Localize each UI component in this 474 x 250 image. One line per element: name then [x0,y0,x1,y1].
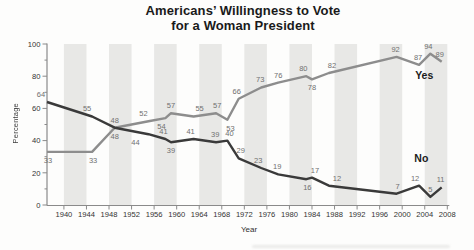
y-tick-label: 0 [36,201,40,210]
data-point-label: 73 [256,75,264,84]
x-tick-label: 1988 [326,210,343,219]
x-tick-label: 1952 [123,210,140,219]
x-tick-label: 1956 [146,210,163,219]
x-tick-label: 1960 [168,210,185,219]
background-band [244,44,267,206]
x-tick-label: 1972 [236,210,253,219]
data-point-label: 40 [225,129,233,138]
x-tick-label: 1992 [349,210,366,219]
x-axis-label: Year [228,225,270,234]
data-point-label: 12 [411,174,419,183]
x-tick-label: 2004 [416,210,433,219]
x-tick-label: 1968 [213,210,230,219]
y-tick-label: 60 [32,104,40,113]
x-tick-label: 1944 [78,210,95,219]
y-tick-label: 20 [32,169,40,178]
data-point-label: 55 [83,104,91,113]
data-point-label: 80 [299,64,307,73]
data-point-label: 16 [303,183,311,192]
data-point-label: 41 [159,127,167,136]
x-tick-label: 1948 [101,210,118,219]
y-tick-label: 80 [32,72,40,81]
data-point-label: 48 [110,116,118,125]
data-point-label: 11 [437,175,445,184]
data-point-label: 76 [274,71,282,80]
data-point-label: 87 [414,53,422,62]
data-point-label: 82 [328,61,336,70]
series-yes-label: Yes [415,69,433,81]
data-point-label: 39 [211,130,219,139]
data-point-label: 23 [254,156,262,165]
chart-figure: Americans’ Willingness to Vote for a Wom… [0,0,474,250]
series-no-label: No [414,152,428,164]
y-axis: 020406080100 [28,40,47,210]
background-band [199,44,222,206]
x-tick-label: 1984 [304,210,321,219]
background-band [64,44,87,206]
data-point-label: 19 [273,162,281,171]
data-point-label: 94 [424,42,432,51]
x-tick-label: 1964 [191,210,208,219]
data-point-label: 5 [428,185,432,194]
x-axis: 1940194419481952195619601964196819721976… [55,206,455,219]
data-point-label: 29 [237,146,245,155]
x-tick-label: 1996 [371,210,388,219]
data-point-label: 89 [435,50,443,59]
data-point-label: 92 [391,45,399,54]
data-point-label: 41 [186,127,194,136]
data-point-label: 64 [37,90,45,99]
data-point-label: 44 [131,138,139,147]
data-point-label: 57 [213,101,221,110]
y-tick-label: 100 [28,40,41,49]
data-point-label: 57 [167,101,175,110]
data-point-label: 33 [44,156,52,165]
data-point-label: 7 [395,182,399,191]
x-tick-label: 1976 [258,210,275,219]
x-tick-label: 1940 [55,210,72,219]
plot-background-bands [64,44,447,206]
scan-edge-artifact [252,245,450,248]
y-tick-label: 40 [32,136,40,145]
data-point-label: 66 [233,87,241,96]
data-point-label: 48 [110,132,118,141]
data-point-label: 55 [195,104,203,113]
data-point-label: 17 [311,166,319,175]
data-point-label: 33 [89,156,97,165]
x-tick-label: 1980 [281,210,298,219]
x-tick-label: 2008 [439,210,456,219]
data-point-label: 39 [167,146,175,155]
line-chart: 0204060801001940194419481952195619601964… [0,0,474,250]
x-tick-label: 2000 [394,210,411,219]
data-point-label: 12 [333,174,341,183]
data-point-label: 78 [308,83,316,92]
data-point-label: 52 [139,109,147,118]
